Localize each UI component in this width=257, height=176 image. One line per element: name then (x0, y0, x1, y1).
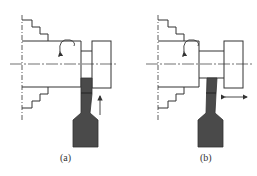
panel-a-label: (a) (60, 152, 71, 163)
workpiece-neck (199, 51, 224, 78)
chuck-jaw-bottom (158, 87, 184, 108)
panel-a (10, 15, 116, 147)
panel-b-label: (b) (200, 152, 212, 163)
rotation-arrow-icon (184, 40, 199, 52)
turning-diagram (0, 0, 257, 176)
workpiece-end (224, 41, 243, 88)
chuck-jaw-top (22, 20, 48, 41)
rotation-arrow-icon (60, 40, 75, 52)
chuck-jaw-top (158, 20, 184, 41)
cutting-tool (198, 78, 223, 147)
chuck-jaw-bottom (22, 87, 48, 108)
panel-b (146, 15, 253, 147)
workpiece-end (92, 41, 111, 88)
